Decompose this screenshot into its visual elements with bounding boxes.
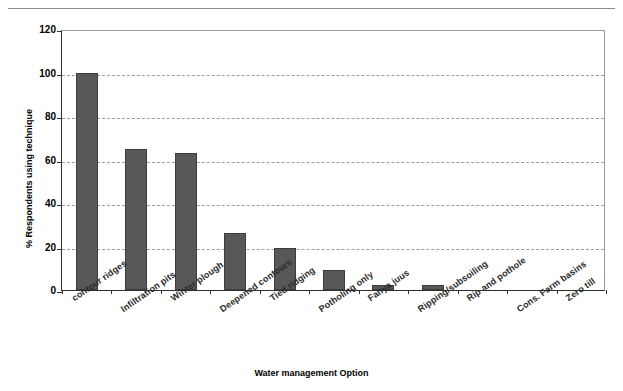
bar	[76, 73, 98, 291]
x-axis-tick	[606, 290, 607, 294]
bar	[224, 233, 246, 290]
bar	[175, 153, 197, 290]
y-axis-tick-label: 120	[26, 25, 56, 35]
gridline	[62, 118, 604, 119]
y-axis-tick	[57, 249, 62, 250]
y-axis-tick-label: 0	[26, 286, 56, 296]
y-axis-tick	[57, 118, 62, 119]
y-axis-tick	[57, 75, 62, 76]
y-axis-tick	[57, 162, 62, 163]
plot-area	[61, 30, 605, 291]
gridline	[62, 75, 604, 76]
x-axis-title: Water management Option	[0, 368, 623, 378]
x-axis-category-labels: contour ridgesInfiltration pitsWinter pl…	[61, 292, 605, 362]
y-axis-title: % Respondents using technique	[24, 109, 34, 248]
bar-chart: 020406080100120 % Respondents using tech…	[0, 0, 623, 391]
bar	[125, 149, 147, 290]
cropped-text-remnant	[0, 0, 623, 7]
y-axis-tick	[57, 205, 62, 206]
header-divider-rule	[8, 8, 615, 9]
y-axis-tick	[57, 31, 62, 32]
y-axis-tick-label: 100	[26, 69, 56, 79]
